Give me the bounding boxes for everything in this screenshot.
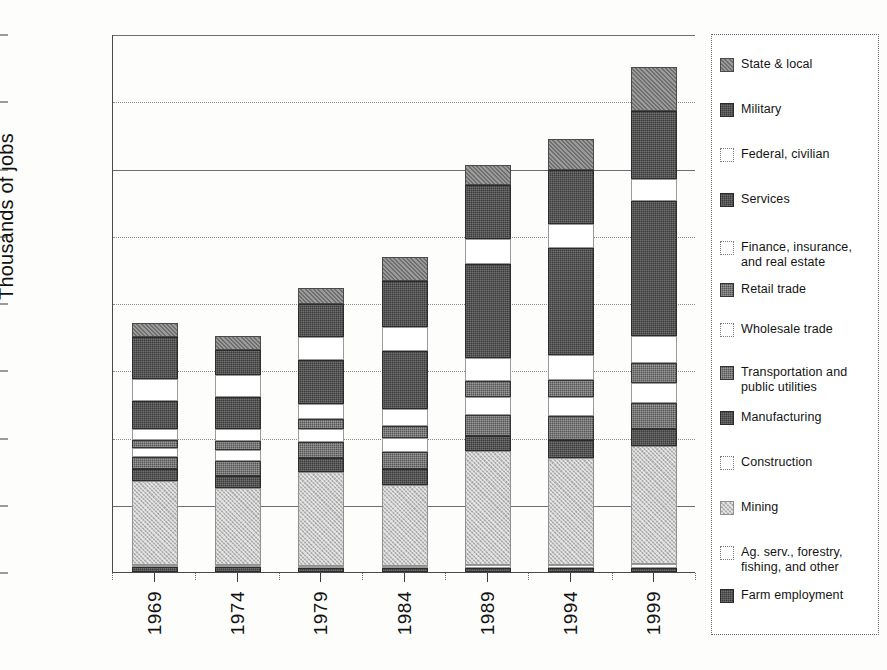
bar-segment[interactable] — [298, 472, 344, 566]
legend-item-1[interactable]: Military — [720, 102, 874, 117]
bar-segment[interactable] — [132, 481, 178, 565]
bar-segment[interactable] — [132, 457, 178, 469]
bar-segment[interactable] — [465, 165, 511, 185]
bar-segment[interactable] — [298, 288, 344, 304]
bar-segment[interactable] — [132, 379, 178, 401]
bar-segment[interactable] — [132, 567, 178, 572]
bar-segment[interactable] — [465, 185, 511, 239]
bar-segment[interactable] — [298, 442, 344, 459]
bar-segment[interactable] — [132, 440, 178, 448]
bar-segment[interactable] — [298, 337, 344, 360]
bar-segment[interactable] — [631, 363, 677, 383]
bar-segment[interactable] — [465, 264, 511, 358]
bar-segment[interactable] — [382, 257, 428, 281]
bar-segment[interactable] — [132, 429, 178, 440]
bar-segment[interactable] — [382, 426, 428, 438]
bar-segment[interactable] — [215, 336, 261, 349]
legend-item-3[interactable]: Services — [720, 192, 874, 207]
bar-segment[interactable] — [382, 409, 428, 426]
bar-segment[interactable] — [215, 429, 261, 441]
bar-segment[interactable] — [132, 337, 178, 379]
bar-segment[interactable] — [548, 170, 594, 224]
bar-segment[interactable] — [382, 351, 428, 409]
bar-segment[interactable] — [382, 568, 428, 572]
bar-segment[interactable] — [298, 458, 344, 471]
bar-segment[interactable] — [215, 567, 261, 572]
legend-item-11[interactable]: Ag. serv., forestry, fishing, and other — [720, 545, 874, 574]
bar-segment[interactable] — [298, 404, 344, 419]
bar-segment[interactable] — [631, 111, 677, 178]
bar-segment[interactable] — [132, 469, 178, 481]
bar-segment[interactable] — [465, 568, 511, 572]
bar-segment[interactable] — [465, 451, 511, 565]
bar-segment[interactable] — [298, 419, 344, 430]
bar-segment[interactable] — [548, 139, 594, 170]
legend-item-4[interactable]: Finance, insurance, and real estate — [720, 240, 874, 269]
bar-1994[interactable] — [548, 139, 594, 572]
bar-segment[interactable] — [548, 355, 594, 379]
bar-1984[interactable] — [382, 257, 428, 572]
bar-1974[interactable] — [215, 336, 261, 572]
legend-item-12[interactable]: Farm employment — [720, 588, 874, 603]
bar-segment[interactable] — [631, 429, 677, 446]
x-minor-tick — [362, 573, 363, 580]
bar-segment[interactable] — [548, 568, 594, 572]
bar-segment[interactable] — [215, 375, 261, 397]
legend-item-10[interactable]: Mining — [720, 500, 874, 515]
bar-segment[interactable] — [382, 469, 428, 485]
bar-segment[interactable] — [631, 336, 677, 363]
bar-1999[interactable] — [631, 67, 677, 572]
bar-segment[interactable] — [382, 327, 428, 351]
bar-segment[interactable] — [382, 485, 428, 566]
bar-segment[interactable] — [548, 458, 594, 564]
bar-segment[interactable] — [465, 239, 511, 265]
bar-segment[interactable] — [631, 568, 677, 572]
legend-item-9[interactable]: Construction — [720, 455, 874, 470]
bar-segment[interactable] — [215, 476, 261, 488]
bar-segment[interactable] — [215, 350, 261, 376]
bar-segment[interactable] — [382, 281, 428, 327]
bar-segment[interactable] — [132, 448, 178, 457]
legend-item-6[interactable]: Wholesale trade — [720, 322, 874, 337]
bar-segment[interactable] — [548, 416, 594, 440]
bar-segment[interactable] — [631, 201, 677, 336]
bar-segment[interactable] — [465, 381, 511, 397]
bar-segment[interactable] — [382, 452, 428, 469]
legend-item-0[interactable]: State & local — [720, 57, 874, 72]
bar-segment[interactable] — [465, 358, 511, 381]
bar-segment[interactable] — [631, 179, 677, 202]
bar-segment[interactable] — [215, 450, 261, 461]
bar-1969[interactable] — [132, 323, 178, 572]
bar-segment[interactable] — [548, 380, 594, 397]
legend-item-5[interactable]: Retail trade — [720, 282, 874, 297]
bar-1979[interactable] — [298, 288, 344, 572]
bar-segment[interactable] — [465, 415, 511, 437]
legend-item-8[interactable]: Manufacturing — [720, 410, 874, 425]
bar-segment[interactable] — [382, 438, 428, 451]
bar-segment[interactable] — [548, 224, 594, 248]
bar-segment[interactable] — [298, 429, 344, 441]
legend-item-7[interactable]: Transportation and public utilities — [720, 365, 874, 394]
bar-segment[interactable] — [298, 360, 344, 404]
legend-item-2[interactable]: Federal, civilian — [720, 147, 874, 162]
bar-segment[interactable] — [548, 440, 594, 459]
bar-segment[interactable] — [132, 401, 178, 429]
bar-segment[interactable] — [465, 397, 511, 414]
bar-segment[interactable] — [132, 323, 178, 338]
bar-segment[interactable] — [631, 67, 677, 111]
bar-segment[interactable] — [548, 397, 594, 416]
x-tick-mark-1979 — [320, 573, 321, 582]
bar-segment[interactable] — [465, 436, 511, 451]
bar-1989[interactable] — [465, 165, 511, 572]
bar-segment[interactable] — [215, 397, 261, 429]
x-minor-tick — [445, 573, 446, 580]
bar-segment[interactable] — [631, 383, 677, 403]
bar-segment[interactable] — [298, 568, 344, 572]
bar-segment[interactable] — [215, 441, 261, 450]
bar-segment[interactable] — [298, 304, 344, 336]
bar-segment[interactable] — [548, 248, 594, 356]
bar-segment[interactable] — [631, 446, 677, 564]
bar-segment[interactable] — [215, 488, 261, 565]
bar-segment[interactable] — [631, 403, 677, 429]
bar-segment[interactable] — [215, 461, 261, 476]
